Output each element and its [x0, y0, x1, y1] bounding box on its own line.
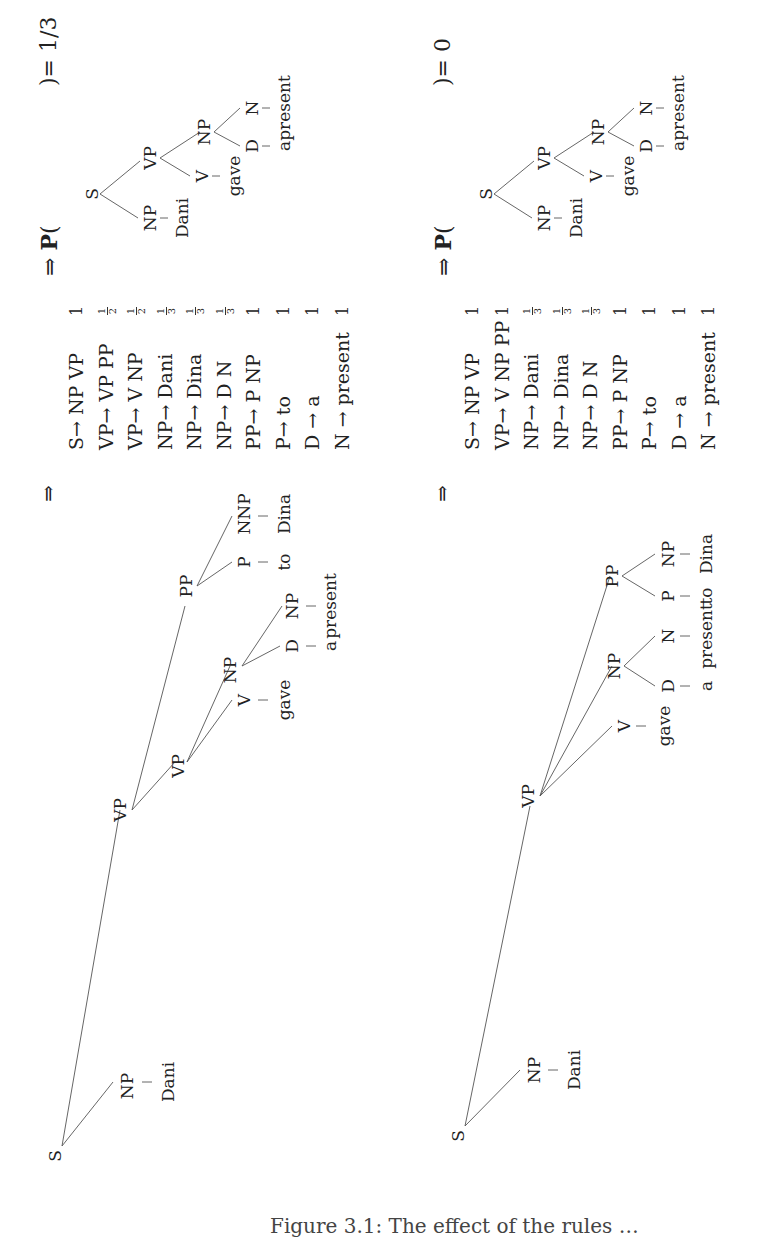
small-tree-node-NP2: NP	[590, 119, 607, 145]
small-tree-node-S: S	[478, 188, 495, 200]
small-tree-node-NP: NP	[536, 205, 553, 231]
small-tree-node-VP: VP	[536, 146, 553, 170]
small-tree-node-N: N	[638, 101, 655, 116]
figure-caption: Figure 3.1: The effect of the rules …	[270, 1214, 639, 1238]
probability-result-2: )= 0	[430, 38, 455, 86]
small-tree-leaf-a: a	[670, 141, 687, 151]
small-tree-leaf-Dani: Dani	[568, 198, 585, 238]
small-tree-node-V: V	[588, 170, 605, 182]
small-tree-leaf-gave: gave	[620, 156, 637, 197]
small-tree-leaf-present: present	[670, 75, 687, 141]
small-tree-node-D: D	[638, 139, 655, 153]
